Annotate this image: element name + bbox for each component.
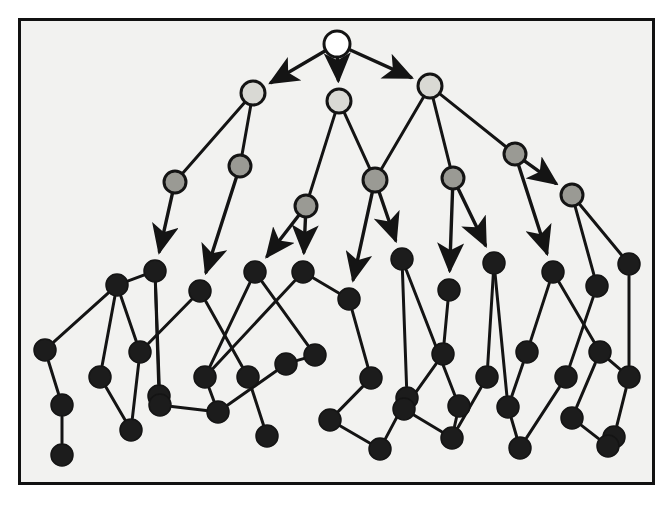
graph-edge <box>49 361 59 393</box>
graph-node-level2[interactable] <box>241 81 265 105</box>
graph-edge <box>527 387 560 438</box>
graph-node-leaf[interactable] <box>120 419 142 441</box>
graph-node-leaf[interactable] <box>338 288 360 310</box>
graph-edge-directed <box>379 192 395 240</box>
graph-edge-directed <box>525 161 556 183</box>
graph-node-leaf[interactable] <box>360 367 382 389</box>
graph-edge <box>511 419 516 437</box>
graph-edge-directed <box>450 190 453 270</box>
graph-node-leaf[interactable] <box>516 341 538 363</box>
graph-node-leaf[interactable] <box>438 279 460 301</box>
graph-node-level2[interactable] <box>418 74 442 98</box>
graph-node-level3[interactable] <box>504 143 526 165</box>
graph-node-leaf[interactable] <box>189 280 211 302</box>
graph-node-leaf[interactable] <box>292 261 314 283</box>
graph-edge <box>338 387 362 412</box>
graph-edge <box>414 415 441 432</box>
graph-node-leaf[interactable] <box>319 409 341 431</box>
graph-node-leaf[interactable] <box>483 252 505 274</box>
graph-node-leaf[interactable] <box>304 344 326 366</box>
graph-node-leaf[interactable] <box>256 425 278 447</box>
graph-node-leaf[interactable] <box>441 427 463 449</box>
graph-node-level3[interactable] <box>229 155 251 177</box>
graph-edge <box>210 283 250 366</box>
graph-edge <box>209 388 214 401</box>
graph-edge <box>106 387 125 419</box>
graph-edge <box>581 425 598 438</box>
graph-node-leaf[interactable] <box>448 395 470 417</box>
graph-node-leaf[interactable] <box>106 274 128 296</box>
graph-node-leaf[interactable] <box>369 438 391 460</box>
graph-node-level3[interactable] <box>295 195 317 217</box>
graph-edge-directed <box>267 216 298 257</box>
graph-node-leaf[interactable] <box>144 260 166 282</box>
graph-edge-directed <box>159 194 172 252</box>
graph-edge <box>344 113 369 168</box>
graph-node-leaf[interactable] <box>589 341 611 363</box>
graph-node-level3[interactable] <box>164 171 186 193</box>
graph-edge <box>54 293 108 342</box>
graph-node-leaf[interactable] <box>244 261 266 283</box>
graph-edge-directed <box>458 189 485 245</box>
graph-edge <box>155 283 159 393</box>
graph-edge <box>297 359 303 361</box>
graph-edge <box>172 406 206 410</box>
graph-edge <box>102 297 115 365</box>
graph-edge <box>313 278 338 293</box>
graph-edge <box>310 113 336 194</box>
graph-edge <box>121 296 136 340</box>
graph-node-leaf[interactable] <box>618 253 640 275</box>
graph-edge <box>433 99 450 167</box>
graph-node-level3[interactable] <box>363 168 387 192</box>
graph-edge <box>488 275 494 365</box>
graph-edge <box>242 106 251 154</box>
graph-node-leaf[interactable] <box>51 394 73 416</box>
graph-node-leaf[interactable] <box>618 366 640 388</box>
graph-node-leaf[interactable] <box>149 394 171 416</box>
graph-node-leaf[interactable] <box>51 444 73 466</box>
graph-edge <box>609 360 620 369</box>
graph-node-leaf[interactable] <box>393 398 415 420</box>
graph-node-leaf[interactable] <box>237 366 259 388</box>
graph-node-root[interactable] <box>324 31 350 57</box>
graph-edge <box>444 302 448 342</box>
graph-edge <box>512 363 523 395</box>
graph-node-level2[interactable] <box>327 89 351 113</box>
graph-edge-directed <box>337 58 338 80</box>
graph-edge <box>577 363 596 407</box>
graph-node-leaf[interactable] <box>432 343 454 365</box>
graph-node-leaf[interactable] <box>555 366 577 388</box>
graph-node-leaf[interactable] <box>497 396 519 418</box>
graph-edge-directed <box>350 50 411 78</box>
graph-edge <box>531 283 550 340</box>
graph-edge <box>128 275 143 281</box>
graph-edge <box>440 94 505 146</box>
graph-node-leaf[interactable] <box>391 248 413 270</box>
graph-node-leaf[interactable] <box>89 366 111 388</box>
graph-node-leaf[interactable] <box>561 407 583 429</box>
graph-node-leaf[interactable] <box>129 341 151 363</box>
graph-edge-directed <box>304 218 306 252</box>
graph-edge-directed <box>353 193 372 280</box>
graph-node-leaf[interactable] <box>207 401 229 423</box>
graph-node-leaf[interactable] <box>194 366 216 388</box>
graph-node-leaf[interactable] <box>476 366 498 388</box>
graph-edge <box>617 389 626 426</box>
graph-node-leaf[interactable] <box>34 339 56 361</box>
graph-edge <box>402 271 406 386</box>
graph-canvas <box>0 0 670 507</box>
graph-edge <box>352 311 368 367</box>
graph-edge <box>132 364 138 418</box>
graph-node-leaf[interactable] <box>586 275 608 297</box>
graph-node-leaf[interactable] <box>542 261 564 283</box>
graph-node-level3[interactable] <box>442 167 464 189</box>
graph-node-leaf[interactable] <box>597 435 619 457</box>
graph-edge-directed <box>206 177 236 272</box>
graph-node-level3[interactable] <box>561 184 583 206</box>
graph-edge <box>382 97 424 169</box>
figure-root <box>0 0 670 507</box>
graph-edge-directed <box>519 165 547 253</box>
graph-edge <box>455 418 457 427</box>
graph-node-leaf[interactable] <box>275 353 297 375</box>
graph-node-leaf[interactable] <box>509 437 531 459</box>
